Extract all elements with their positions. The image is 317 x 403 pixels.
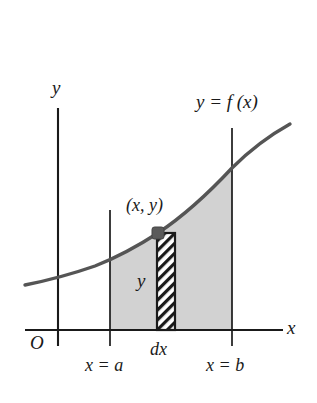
right-bound-label: x = b [206,356,244,374]
y-axis-label: y [52,78,60,97]
left-bound-label: x = a [85,356,123,374]
strip-width-label: dx [150,340,167,358]
origin-label: O [30,333,44,352]
representative-strip [157,233,175,330]
strip-height-label: y [137,271,145,290]
area-under-curve-figure: y x O y = f (x) (x, y) y dx x = a x = b [0,0,317,403]
curve-equation-label: y = f (x) [196,92,258,111]
point-marker-dot [152,227,164,239]
point-coordinates-label: (x, y) [126,196,163,214]
x-axis-label: x [287,318,295,337]
